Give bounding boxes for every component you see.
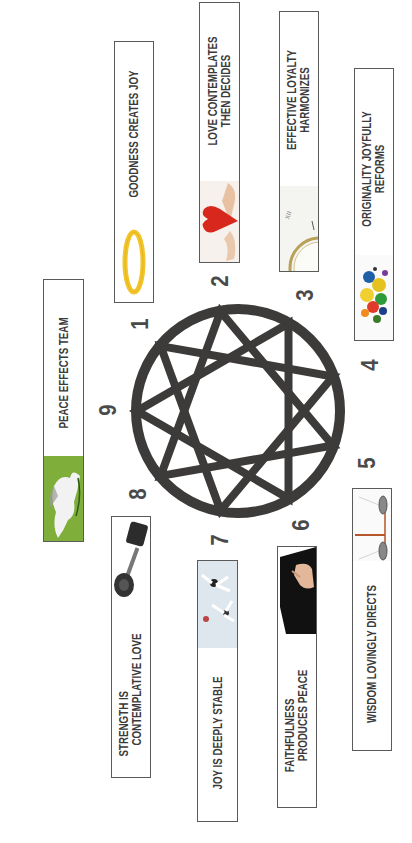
heart-in-hands-image	[200, 181, 239, 263]
type-2-card: LOVE CONTEMPLATESTHEN DECIDES	[199, 2, 240, 263]
point-number-5: 5	[355, 453, 379, 473]
point-number-3: 3	[293, 285, 317, 305]
point-number-6: 6	[289, 515, 313, 535]
type-5-card: WISDOM LOVINGLY DIRECTS	[352, 488, 392, 751]
type-8-label: STRENGTH ISCONTEMPLATIVE LOVE	[118, 616, 144, 774]
point-number-4: 4	[358, 355, 382, 375]
point-number-9: 9	[96, 400, 120, 420]
pocket-watch-image: XII	[280, 186, 318, 272]
hand-on-book-image	[278, 547, 316, 634]
type-2-label: LOVE CONTEMPLATESTHEN DECIDES	[207, 20, 233, 160]
dumbbell-image	[112, 517, 150, 605]
paint-splatter-image	[355, 255, 393, 341]
type-4-card: ORIGINALITY JOYFULLYREFORMS	[354, 68, 394, 341]
type-5-label: WISDOM LOVINGLY DIRECTS	[366, 565, 379, 742]
svg-text:XII: XII	[284, 210, 292, 220]
type-7-label: JOY IS DEEPLY STABLE	[211, 661, 224, 806]
type-4-label: ORIGINALITY JOYFULLYREFORMS	[361, 95, 387, 243]
type-6-label: FAITHFULNESSPRODUCES PEACE	[284, 655, 310, 786]
white-dove-image	[44, 456, 83, 542]
point-number-2: 2	[208, 271, 232, 291]
point-number-1: 1	[128, 314, 152, 334]
type-3-card: XII EFFECTIVE LOYALTYHARMONIZES	[279, 11, 319, 272]
enneagram-ring	[136, 309, 340, 513]
type-6-card: FAITHFULNESSPRODUCES PEACE	[277, 546, 317, 808]
type-9-label: PEACE EFFECTS TEAM	[57, 301, 70, 443]
point-number-7: 7	[208, 530, 232, 550]
type-8-card: STRENGTH ISCONTEMPLATIVE LOVE	[111, 516, 151, 778]
balance-scales-image	[353, 489, 391, 561]
type-9-card: PEACE EFFECTS TEAM	[43, 279, 84, 542]
type-3-label: EFFECTIVE LOYALTYHARMONIZES	[286, 35, 312, 164]
golden-halo-image	[115, 220, 153, 303]
type-1-card: GOODNESS CREATES JOY	[114, 41, 154, 303]
type-7-card: JOY IS DEEPLY STABLE	[197, 560, 238, 822]
type-1-label: GOODNESS CREATES JOY	[128, 53, 141, 216]
jumping-people-image	[198, 561, 237, 648]
point-number-8: 8	[126, 484, 150, 504]
